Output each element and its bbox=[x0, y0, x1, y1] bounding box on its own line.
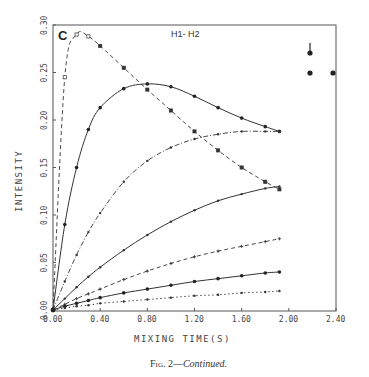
data-point bbox=[216, 277, 220, 281]
x-axis-ticks: 0.000.400.801.201.602.002.40 bbox=[43, 308, 345, 324]
data-point bbox=[87, 304, 89, 306]
data-point bbox=[146, 88, 149, 91]
data-point bbox=[169, 284, 173, 288]
plot-border bbox=[53, 25, 336, 311]
data-point bbox=[264, 187, 266, 189]
data-point bbox=[170, 146, 172, 148]
data-point bbox=[240, 193, 242, 195]
data-point bbox=[240, 116, 244, 120]
data-point bbox=[99, 212, 101, 214]
x-tick-label: 2.40 bbox=[326, 315, 345, 324]
data-point bbox=[278, 130, 280, 132]
series-line bbox=[53, 239, 279, 310]
y-tick-label: 0.10 bbox=[40, 206, 49, 225]
data-point bbox=[75, 302, 79, 306]
data-point bbox=[170, 220, 172, 222]
data-point bbox=[217, 294, 219, 296]
origin-point bbox=[51, 308, 56, 313]
data-point bbox=[63, 76, 66, 79]
series-2 bbox=[53, 82, 281, 310]
series-6 bbox=[53, 270, 281, 310]
y-tick-label: 0.15 bbox=[40, 158, 49, 177]
x-tick-label: 0.40 bbox=[90, 315, 109, 324]
data-point bbox=[98, 296, 102, 300]
x-tick-label: 2.00 bbox=[279, 315, 298, 324]
data-point bbox=[240, 292, 242, 294]
panel-letter: C bbox=[58, 28, 68, 43]
series-line bbox=[53, 187, 279, 311]
data-point bbox=[240, 245, 243, 248]
data-point bbox=[264, 180, 267, 183]
series-4 bbox=[53, 185, 281, 310]
data-point bbox=[193, 138, 195, 140]
data-point bbox=[87, 128, 91, 132]
x-axis-title: MIXING TIME(S) bbox=[134, 334, 231, 344]
y-axis-title: INTENSITY bbox=[14, 150, 24, 212]
data-point bbox=[99, 302, 101, 304]
y-tick-label: 0.25 bbox=[40, 63, 49, 82]
molecule-inset bbox=[307, 43, 335, 76]
data-point bbox=[263, 125, 267, 129]
data-point bbox=[87, 276, 89, 278]
data-point bbox=[193, 130, 196, 133]
series-1 bbox=[53, 32, 281, 310]
caption-continued: Continued. bbox=[183, 358, 227, 369]
data-point bbox=[122, 66, 125, 69]
data-point bbox=[75, 286, 77, 288]
data-point bbox=[122, 291, 126, 295]
data-point bbox=[146, 298, 148, 300]
data-point bbox=[193, 255, 196, 258]
y-tick-label: 0.00 bbox=[40, 301, 49, 320]
data-point bbox=[99, 44, 102, 47]
data-point bbox=[193, 295, 195, 297]
data-point bbox=[264, 240, 267, 243]
series-3 bbox=[53, 130, 281, 310]
caption-prefix: Fig. 2— bbox=[150, 358, 183, 369]
data-point bbox=[278, 290, 280, 292]
figure-caption: Fig. 2—Continued. bbox=[150, 358, 227, 369]
data-point bbox=[240, 166, 243, 169]
data-point bbox=[75, 254, 77, 256]
data-point bbox=[264, 130, 266, 132]
data-point bbox=[63, 223, 67, 227]
data-point bbox=[87, 35, 90, 38]
data-point bbox=[87, 292, 90, 295]
data-point bbox=[216, 149, 219, 152]
x-tick-label: 1.20 bbox=[185, 315, 204, 324]
y-axis-ticks: 0.000.050.100.150.200.250.30 bbox=[40, 16, 56, 320]
data-point bbox=[87, 299, 91, 303]
data-point bbox=[169, 85, 173, 89]
y-tick-label: 0.20 bbox=[40, 111, 49, 130]
spin-dot-icon bbox=[307, 70, 312, 75]
data-point bbox=[217, 133, 219, 135]
data-point bbox=[169, 262, 172, 265]
data-point bbox=[64, 280, 66, 282]
series-5 bbox=[53, 237, 281, 310]
data-point bbox=[98, 106, 102, 110]
x-tick-label: 1.60 bbox=[232, 315, 251, 324]
series-line bbox=[53, 84, 279, 310]
data-point bbox=[278, 188, 281, 191]
data-point bbox=[263, 271, 267, 275]
data-point bbox=[122, 87, 126, 91]
data-point bbox=[217, 200, 219, 202]
data-point bbox=[278, 270, 282, 274]
data-point bbox=[193, 94, 197, 98]
data-point bbox=[193, 209, 195, 211]
data-point bbox=[216, 250, 219, 253]
plot-frame bbox=[53, 25, 336, 311]
data-point bbox=[278, 185, 280, 187]
data-point bbox=[216, 106, 220, 110]
data-point bbox=[146, 269, 149, 272]
data-point bbox=[240, 274, 244, 278]
data-point bbox=[75, 33, 78, 36]
data-point bbox=[99, 266, 101, 268]
data-point bbox=[264, 291, 266, 293]
data-point bbox=[123, 181, 125, 183]
data-series bbox=[51, 32, 282, 313]
data-point bbox=[75, 297, 78, 300]
data-point bbox=[146, 287, 150, 291]
data-point bbox=[64, 297, 66, 299]
data-point bbox=[99, 288, 102, 291]
y-tick-label: 0.30 bbox=[40, 16, 49, 35]
